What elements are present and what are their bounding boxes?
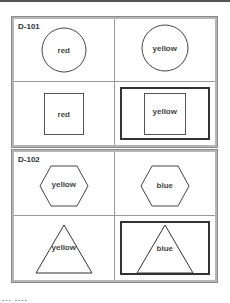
shape-label: yellow [52, 242, 76, 251]
cell-triangle-yellow[interactable]: yellow [14, 216, 115, 280]
footer-text-cut-off: ... .... [2, 294, 28, 303]
cell-circle-yellow[interactable]: yellow [115, 19, 216, 82]
shape-label: blue [157, 180, 173, 189]
shape-label: yellow [52, 179, 76, 188]
panel-label: D-101 [18, 22, 40, 31]
shape-label: red [58, 109, 70, 118]
panel-label: D-102 [18, 155, 40, 164]
shape-label: yellow [153, 43, 177, 52]
panel-d-102: D-102 yellow blue yellow blue [12, 150, 217, 282]
cell-hexagon-blue[interactable]: blue [115, 152, 216, 216]
cell-square-yellow-selected[interactable]: yellow [115, 82, 216, 145]
shape-label: yellow [153, 106, 177, 115]
shape-label: red [58, 46, 70, 55]
cell-square-red[interactable]: red [14, 82, 115, 145]
top-border [0, 0, 230, 2]
panel-d-101: D-101 red yellow red yellow [12, 17, 217, 147]
cell-triangle-blue-selected[interactable]: blue [115, 216, 216, 280]
shape-label: blue [157, 244, 173, 253]
